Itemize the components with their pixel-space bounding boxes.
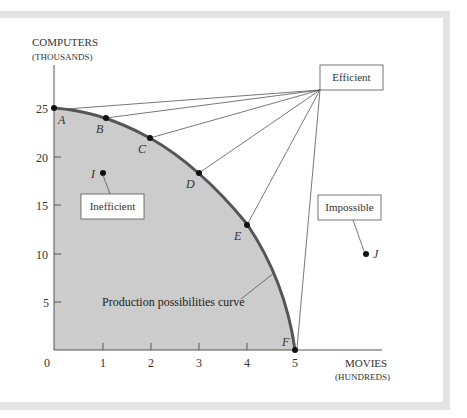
impossible-label: Impossible — [325, 201, 373, 213]
y-tick-5: 5 — [43, 296, 49, 310]
x-tick-5: 5 — [292, 356, 298, 370]
y-tick-10: 10 — [36, 248, 48, 262]
x-axis-units: (HUNDREDS) — [335, 372, 390, 382]
point-d — [196, 170, 202, 176]
y-axis-title: COMPUTERS — [32, 36, 98, 48]
label-a: A — [57, 113, 66, 127]
feasible-region — [54, 108, 295, 350]
ppc-chart: COMPUTERS (THOUSANDS) MOVIES (HUNDREDS) … — [0, 0, 467, 418]
y-axis-units: (THOUSANDS) — [32, 52, 93, 62]
point-c — [147, 135, 153, 141]
y-tick-20: 20 — [36, 151, 48, 165]
point-j — [363, 251, 369, 257]
curve-label: Production possibilities curve — [102, 295, 245, 309]
label-d: D — [185, 177, 195, 191]
inefficient-label: Inefficient — [90, 200, 136, 212]
label-f: F — [281, 335, 290, 349]
point-e — [244, 222, 250, 228]
y-tick-15: 15 — [36, 199, 48, 213]
efficient-label: Efficient — [332, 71, 370, 83]
x-tick-3: 3 — [196, 356, 202, 370]
point-b — [103, 115, 109, 121]
x-axis-title: MOVIES — [345, 357, 387, 369]
x-tick-1: 1 — [100, 356, 106, 370]
impossible-leader — [353, 220, 364, 251]
origin-label: 0 — [44, 356, 50, 370]
y-tick-25: 25 — [36, 102, 48, 116]
label-b: B — [96, 122, 104, 136]
point-a — [51, 105, 57, 111]
label-c: C — [138, 142, 147, 156]
point-f — [292, 347, 298, 353]
label-e: E — [233, 229, 242, 243]
x-tick-2: 2 — [148, 356, 154, 370]
label-j: J — [373, 247, 379, 261]
x-tick-4: 4 — [244, 356, 250, 370]
